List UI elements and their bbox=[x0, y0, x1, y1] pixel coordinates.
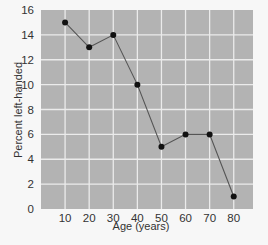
data-point bbox=[231, 194, 237, 200]
data-point bbox=[62, 19, 68, 25]
x-tick-label: 10 bbox=[59, 212, 72, 224]
data-point bbox=[207, 131, 213, 137]
x-tick-label: 80 bbox=[227, 212, 240, 224]
y-tick-label: 6 bbox=[28, 128, 34, 140]
y-tick-label: 2 bbox=[28, 178, 34, 190]
data-point bbox=[110, 32, 116, 38]
data-point bbox=[158, 144, 164, 150]
y-axis-label: Percent left-handed bbox=[12, 62, 24, 158]
y-tick-label: 16 bbox=[21, 4, 34, 16]
x-tick-label: 20 bbox=[83, 212, 96, 224]
data-point bbox=[134, 82, 140, 88]
data-point bbox=[86, 44, 92, 50]
x-axis-label: Age (years) bbox=[113, 220, 170, 232]
y-tick-label: 8 bbox=[28, 104, 34, 116]
line-chart: 0246810121416 1020304050607080 Age (year… bbox=[0, 0, 268, 245]
y-tick-label: 0 bbox=[28, 203, 34, 215]
data-point bbox=[183, 131, 189, 137]
x-tick-label: 60 bbox=[179, 212, 192, 224]
y-tick-label: 4 bbox=[28, 153, 35, 165]
x-tick-label: 70 bbox=[203, 212, 216, 224]
y-tick-label: 14 bbox=[21, 29, 34, 41]
